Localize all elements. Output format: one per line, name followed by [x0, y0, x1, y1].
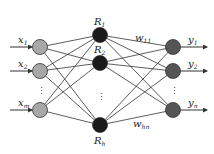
nodes	[33, 28, 181, 133]
hidden-label-R1: R1	[93, 16, 105, 28]
input-label-xm: xm	[18, 97, 30, 109]
input-label-x2: x2	[18, 58, 28, 70]
output-ellipsis: ⋮	[170, 86, 179, 96]
input-node-xm	[33, 103, 48, 118]
output-label-y2: y2	[187, 58, 198, 70]
hidden-ellipsis: ⋮	[97, 92, 106, 102]
hidden-node-R2	[93, 56, 108, 71]
output-node-yn	[166, 103, 181, 118]
output-node-y1	[166, 40, 181, 55]
edge-Rh-y1	[100, 47, 173, 125]
edge-R2-y1	[100, 47, 173, 63]
edge-Rh-y2	[100, 71, 173, 125]
hidden-node-R1	[93, 28, 108, 43]
output-node-y2	[166, 64, 181, 79]
edge-R1-yn	[100, 35, 173, 110]
hidden-label-R2: R2	[93, 44, 106, 56]
connections	[40, 35, 173, 125]
input-node-x2	[33, 64, 48, 79]
edge-x1-R2	[40, 47, 100, 63]
edge-xm-R1	[40, 35, 100, 110]
weight-label-whn: whn	[133, 118, 149, 130]
neural-network-diagram: x1x2xmR1R2Rhy1y2yn w11 whn ⋮ ⋮ ⋮	[0, 0, 214, 154]
edge-x2-R1	[40, 35, 100, 71]
output-label-y1: y1	[187, 34, 197, 46]
weight-label-w11: w11	[135, 32, 151, 44]
output-label-yn: yn	[187, 97, 198, 109]
hidden-label-Rh: Rh	[93, 135, 106, 147]
edge-x2-Rh	[40, 71, 100, 125]
input-node-x1	[33, 40, 48, 55]
edge-xm-Rh	[40, 110, 100, 125]
hidden-node-Rh	[93, 118, 108, 133]
input-label-x1: x1	[18, 34, 27, 46]
edge-x1-R1	[40, 35, 100, 47]
input-ellipsis: ⋮	[37, 86, 46, 96]
